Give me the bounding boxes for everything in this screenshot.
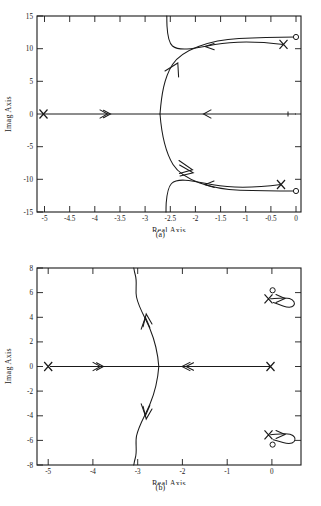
x-tick-label: -0.5 (265, 215, 277, 223)
y-tick-label: 6 (29, 289, 33, 297)
x-tick-label: -1.5 (215, 215, 227, 223)
x-tick-label: -2.5 (165, 215, 177, 223)
x-tick-label: -3 (142, 215, 148, 223)
y-tick-label: 10 (26, 45, 34, 53)
y-tick-labels-a: 15 10 5 0 -5 -10 -15 (23, 13, 33, 217)
x-tick-label: -1 (243, 215, 249, 223)
y-tick-label: -6 (27, 437, 33, 445)
y-axis-title-b: Imag Axis (4, 348, 13, 384)
x-tick-label: -1 (224, 468, 230, 476)
x-tick-label: -3.5 (114, 215, 126, 223)
x-tick-label: 0 (294, 215, 298, 223)
root-locus-plot-b: -5 -4 -3 -2 -1 0 8 6 (0, 253, 321, 485)
x-tick-label: -4 (92, 215, 98, 223)
y-tick-label: 5 (29, 78, 33, 86)
locus-arrows-a (100, 43, 214, 187)
x-tick-label: -4.5 (64, 215, 76, 223)
x-tick-label: -2 (179, 468, 185, 476)
x-tick-label: 0 (270, 468, 274, 476)
x-tick-label: -5 (45, 468, 51, 476)
y-tick-label: -4 (27, 412, 33, 420)
y-axis-title-a: Imag Axis (4, 96, 13, 132)
y-tick-label: 8 (29, 265, 33, 273)
panel-a: -5 -4.5 -4 -3.5 -3 -2.5 -2 -1.5 -1 -0.5 … (0, 0, 321, 253)
caption-b: (b) (0, 483, 321, 492)
y-tick-label: 0 (29, 363, 33, 371)
y-tick-label: 0 (29, 111, 33, 119)
x-tick-labels-a: -5 -4.5 -4 -3.5 -3 -2.5 -2 -1.5 -1 -0.5 … (42, 215, 299, 223)
y-tick-label: -15 (23, 209, 33, 217)
x-tick-label: -5 (42, 215, 48, 223)
real-axis-locus-a (42, 112, 296, 117)
y-tick-label: -8 (27, 462, 33, 470)
caption-a: (a) (0, 230, 321, 239)
y-tick-labels-b: 8 6 4 2 0 -2 -4 -6 -8 (27, 265, 33, 470)
x-tick-label: -3 (135, 468, 141, 476)
y-tick-label: -5 (27, 143, 33, 151)
x-tick-label: -2 (192, 215, 198, 223)
root-locus-plot-a: -5 -4.5 -4 -3.5 -3 -2.5 -2 -1.5 -1 -0.5 … (0, 0, 321, 232)
panel-b: -5 -4 -3 -2 -1 0 8 6 (0, 253, 321, 506)
x-tick-labels-b: -5 -4 -3 -2 -1 0 (45, 468, 274, 476)
x-tick-label: -4 (90, 468, 96, 476)
y-tick-label: 2 (29, 338, 33, 346)
y-tick-label: -2 (27, 388, 33, 396)
y-tick-label: 4 (29, 314, 33, 322)
y-tick-label: 15 (26, 13, 34, 21)
y-tick-label: -10 (23, 176, 33, 184)
